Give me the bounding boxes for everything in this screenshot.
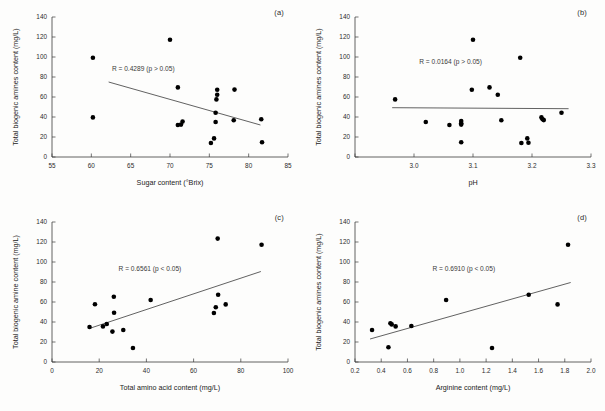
x-tick-label: 75 [206, 162, 214, 169]
data-point [148, 298, 153, 303]
y-tick-label: 140 [339, 13, 350, 20]
data-point [370, 328, 375, 333]
x-tick-label: 80 [237, 367, 245, 374]
data-point [176, 85, 181, 90]
y-tick-label: 120 [339, 238, 350, 245]
x-tick-label: 3.1 [469, 162, 478, 169]
data-point [168, 37, 173, 42]
data-point [91, 115, 96, 120]
y-tick-label: 20 [40, 133, 48, 140]
x-axis-title: Arginine content (mg/L) [436, 383, 511, 392]
x-tick-label: 20 [96, 367, 104, 374]
y-tick-label: 100 [36, 53, 47, 60]
panel-c-plot: 020406080100020406080100120140R = 0.6561… [0, 205, 302, 410]
correlation-annotation: R = 0.6910 (p < 0.05) [432, 265, 495, 273]
correlation-annotation: R = 0.4289 (p > 0.05) [112, 65, 175, 73]
x-tick-label: 3.3 [587, 162, 596, 169]
data-point [499, 118, 504, 123]
data-point [386, 345, 391, 350]
data-point [215, 236, 220, 241]
y-tick-label: 80 [343, 278, 351, 285]
data-point [121, 328, 126, 333]
data-point [212, 311, 217, 316]
data-point [424, 120, 429, 125]
y-tick-label: 100 [339, 53, 350, 60]
data-point [447, 123, 452, 128]
data-point [487, 85, 492, 90]
y-tick-label: 40 [343, 113, 351, 120]
data-point [87, 325, 92, 330]
data-point [213, 111, 218, 116]
y-tick-label: 60 [343, 93, 351, 100]
data-point [112, 295, 117, 300]
data-point [470, 88, 475, 93]
y-tick-label: 80 [343, 73, 351, 80]
data-point [104, 322, 109, 327]
data-point [526, 141, 531, 146]
x-tick-label: 60 [88, 162, 96, 169]
x-tick-label: 1.0 [455, 367, 464, 374]
panel-a-plot: 55606570758085020406080100120140R = 0.42… [0, 0, 302, 205]
data-point [212, 136, 217, 141]
regression-trend-line [370, 283, 571, 340]
data-point [471, 37, 476, 42]
correlation-annotation: R = 0.0164 (p > 0.05) [419, 58, 482, 66]
data-point [112, 311, 117, 316]
x-tick-label: 60 [190, 367, 198, 374]
y-tick-label: 120 [36, 33, 47, 40]
panel-c: (c) 020406080100020406080100120140R = 0.… [0, 205, 302, 410]
data-point [93, 302, 98, 307]
y-tick-label: 100 [339, 258, 350, 265]
y-tick-label: 20 [40, 338, 48, 345]
regression-trend-line [89, 272, 261, 329]
data-point [213, 305, 218, 310]
data-point [459, 122, 464, 127]
x-tick-label: 65 [127, 162, 135, 169]
y-tick-label: 0 [43, 358, 47, 365]
y-tick-label: 40 [40, 113, 48, 120]
data-point [495, 92, 500, 97]
correlation-annotation: R = 0.6561 (p < 0.05) [119, 265, 182, 273]
data-point [389, 322, 394, 327]
x-axis-title: Total amino acid content (mg/L) [120, 383, 220, 392]
y-tick-label: 80 [40, 278, 48, 285]
y-axis-title: Total biogenic amines content (mg/L) [314, 28, 323, 145]
x-tick-label: 0.2 [351, 367, 360, 374]
y-tick-label: 20 [343, 338, 351, 345]
data-point [131, 346, 136, 351]
data-point [232, 87, 237, 92]
x-tick-label: 3.2 [528, 162, 537, 169]
data-point [409, 324, 414, 329]
y-tick-label: 140 [36, 13, 47, 20]
y-tick-label: 0 [43, 153, 47, 160]
x-tick-label: 3.0 [410, 162, 419, 169]
data-point [215, 92, 220, 97]
data-point [518, 55, 523, 60]
data-point [110, 329, 115, 334]
regression-trend-line [392, 108, 568, 109]
x-tick-label: 0.4 [377, 367, 386, 374]
x-tick-label: 70 [166, 162, 174, 169]
y-tick-label: 140 [339, 218, 350, 225]
data-point [393, 97, 398, 102]
x-tick-label: 80 [245, 162, 253, 169]
x-tick-label: 0 [50, 367, 54, 374]
data-point [260, 140, 265, 145]
y-tick-label: 0 [346, 358, 350, 365]
figure-container: (a) 55606570758085020406080100120140R = … [0, 0, 605, 411]
data-point [231, 118, 236, 123]
x-axis-title: Sugar content (°Brix) [137, 178, 204, 187]
data-point [444, 298, 449, 303]
x-tick-label: 85 [284, 162, 292, 169]
regression-trend-line [109, 82, 261, 125]
y-tick-label: 0 [346, 153, 350, 160]
y-tick-label: 120 [339, 33, 350, 40]
data-point [526, 293, 531, 298]
data-point [259, 242, 264, 247]
data-point [223, 302, 228, 307]
data-point [542, 118, 547, 123]
y-axis-title: Total biogenic amine content (mg/L) [11, 235, 20, 349]
x-tick-label: 1.4 [508, 367, 517, 374]
data-point [101, 324, 106, 329]
x-tick-label: 2.0 [587, 367, 596, 374]
